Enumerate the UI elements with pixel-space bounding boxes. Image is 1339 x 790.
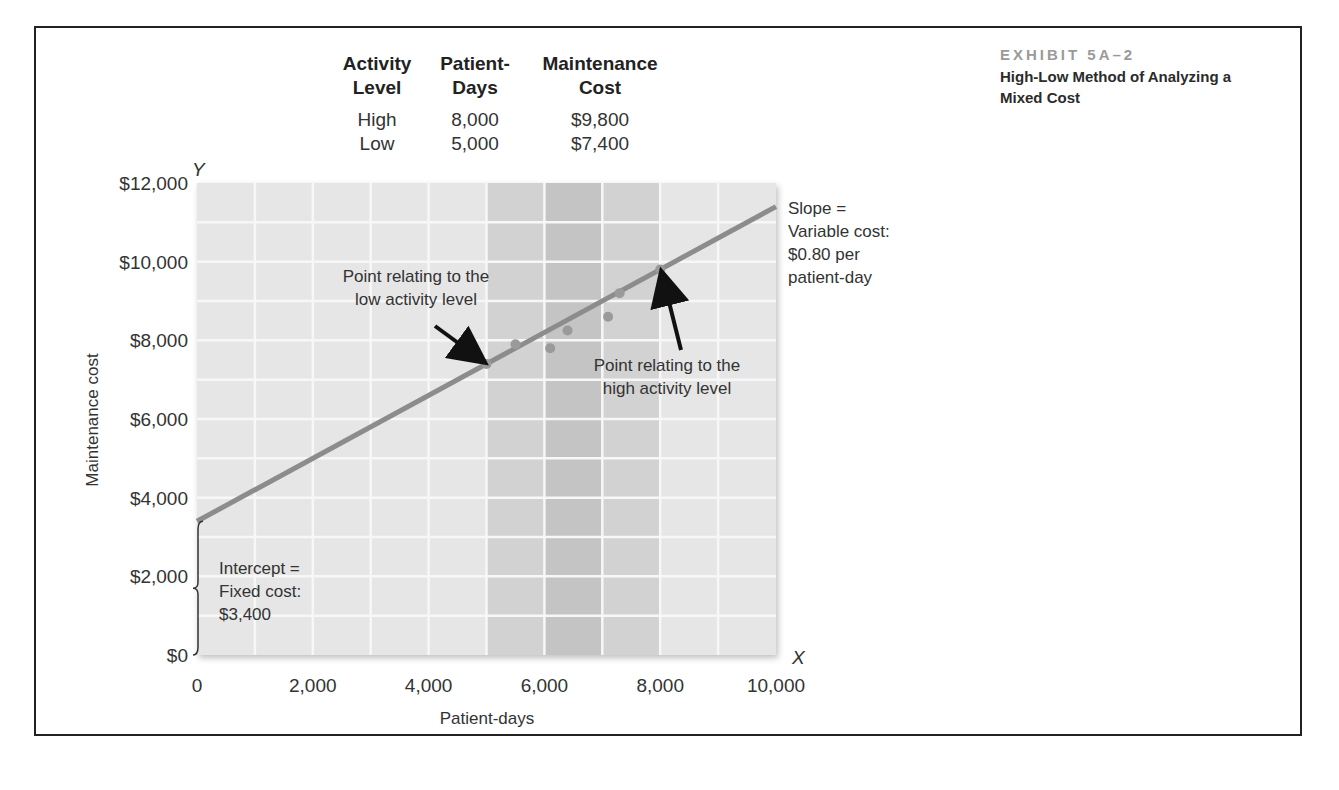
high-low-chart: $0$2,000$4,000$6,000$8,000$10,000$12,000… — [0, 0, 1339, 790]
x-tick-label: 8,000 — [636, 675, 684, 696]
y-axis-ticks: $0$2,000$4,000$6,000$8,000$10,000$12,000 — [119, 173, 188, 666]
data-point — [510, 339, 520, 349]
x-tick-label: 2,000 — [289, 675, 337, 696]
x-tick-label: 6,000 — [521, 675, 569, 696]
y-tick-label: $12,000 — [119, 173, 188, 194]
data-point — [482, 359, 492, 369]
data-point — [563, 326, 573, 336]
data-point — [603, 312, 613, 322]
data-point — [545, 343, 555, 353]
y-tick-label: $0 — [167, 645, 188, 666]
y-tick-label: $6,000 — [130, 409, 188, 430]
y-axis-label: Maintenance cost — [83, 353, 102, 487]
x-tick-label: 10,000 — [747, 675, 805, 696]
x-tick-label: 4,000 — [405, 675, 453, 696]
x-tick-label: 0 — [192, 675, 203, 696]
y-axis-letter: Y — [192, 159, 206, 180]
y-tick-label: $10,000 — [119, 252, 188, 273]
x-axis-letter: X — [791, 647, 806, 668]
y-tick-label: $4,000 — [130, 488, 188, 509]
y-tick-label: $8,000 — [130, 330, 188, 351]
y-tick-label: $2,000 — [130, 566, 188, 587]
x-axis-ticks: 02,0004,0006,0008,00010,000 — [192, 675, 805, 696]
x-axis-label: Patient-days — [440, 709, 535, 728]
slope-annotation: Slope =Variable cost:$0.80 perpatient-da… — [788, 199, 890, 287]
data-point — [655, 265, 665, 275]
data-point — [615, 288, 625, 298]
